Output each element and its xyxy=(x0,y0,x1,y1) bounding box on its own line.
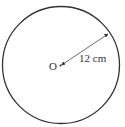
radius-label: 12 cm xyxy=(79,52,107,64)
center-point xyxy=(60,65,62,67)
center-label: O xyxy=(49,60,57,72)
circle-diagram: O 12 cm xyxy=(0,0,125,127)
